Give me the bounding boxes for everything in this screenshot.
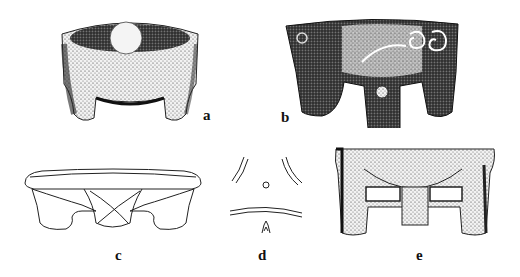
panel-a-mortar-with-pestle xyxy=(60,14,200,126)
panel-c-outline-mortar xyxy=(22,165,204,233)
panel-label-a: a xyxy=(203,108,211,123)
panel-b-carved-tripod-mortar xyxy=(282,12,462,128)
panel-label-c: c xyxy=(115,248,122,263)
panel-e-rectangular-mortar xyxy=(334,145,496,237)
panel-d-schematic-view xyxy=(226,155,306,237)
panel-label-e: e xyxy=(416,248,423,263)
panel-label-b: b xyxy=(281,110,289,125)
panel-label-d: d xyxy=(258,248,266,263)
